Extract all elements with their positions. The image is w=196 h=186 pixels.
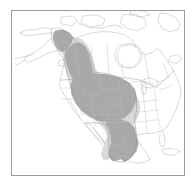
aleutian-arc [15,54,33,58]
range-core-interior-west [70,73,136,121]
great-lakes-states-border [131,81,155,84]
gulf-coast-coastline [135,128,167,160]
saskatchewan-manitoba-border [107,43,110,78]
map-frame [11,10,185,176]
banks-island-coastline [61,16,77,26]
victoria-island-coastline [81,15,105,27]
newfoundland-coastline [169,54,182,63]
alaska-peninsula [16,60,24,65]
map-canvas [12,11,184,175]
appalachian-border [154,88,160,128]
cuba-coastline [162,148,180,155]
water-bodies [117,45,141,68]
greenland-coastline [158,13,180,32]
range-map-figure [0,0,196,186]
hudson-bay-water [117,45,141,68]
florida-coastline [159,131,165,148]
quebec-maritime-border [162,62,168,76]
midwest-east-border [142,86,147,133]
ontario-quebec-border [144,54,150,84]
atlantic-states-border [158,84,172,90]
arctic-landmasses [61,11,180,32]
deepsouth-border [135,120,159,122]
